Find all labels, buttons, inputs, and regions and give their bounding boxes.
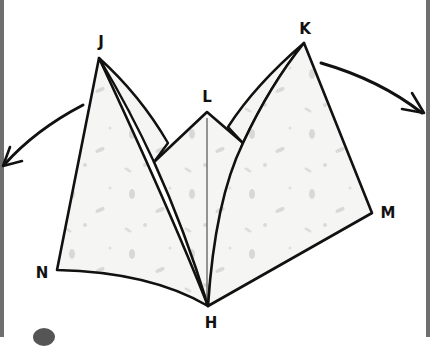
label-n: N <box>36 266 49 281</box>
right-arrowhead-icon <box>402 93 424 113</box>
label-m: M <box>381 206 396 221</box>
label-h: H <box>205 316 218 331</box>
corner-mark <box>33 328 55 346</box>
right-flap <box>208 43 372 306</box>
label-j: J <box>98 35 104 50</box>
label-k: K <box>299 22 311 37</box>
right-arrow <box>321 63 422 113</box>
label-l: L <box>202 90 212 105</box>
left-arrow <box>4 105 83 165</box>
